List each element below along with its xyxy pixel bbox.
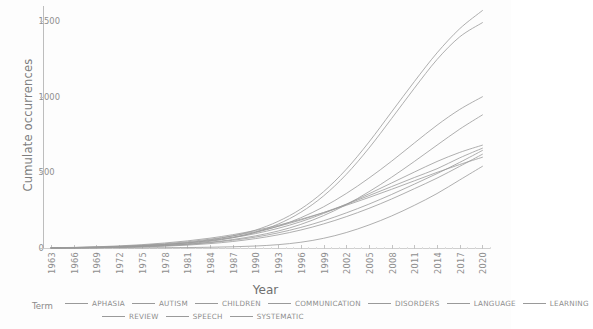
legend-row: REVIEWSPEECHSYSTEMATIC (102, 312, 311, 321)
series-line (51, 166, 482, 248)
legend-swatch (268, 303, 291, 304)
legend-swatch (132, 303, 155, 304)
legend-label: SYSTEMATIC (257, 312, 304, 321)
legend-item[interactable]: CHILDREN (195, 299, 261, 308)
legend-item[interactable]: AUTISM (132, 299, 188, 308)
legend-label: DISORDERS (395, 299, 440, 308)
x-axis-title: Year (0, 283, 511, 297)
legend-swatch (166, 316, 189, 317)
legend-swatch (102, 316, 125, 317)
legend-swatch (447, 303, 470, 304)
legend-label: LANGUAGE (474, 299, 516, 308)
series-line (51, 23, 482, 248)
legend-item[interactable]: LANGUAGE (447, 299, 516, 308)
legend-label: REVIEW (129, 312, 159, 321)
legend-swatch (65, 303, 88, 304)
legend-item[interactable]: SPEECH (166, 312, 223, 321)
legend-item[interactable]: SYSTEMATIC (230, 312, 304, 321)
series-line (51, 148, 482, 248)
legend-label: COMMUNICATION (295, 299, 361, 308)
legend-swatch (523, 303, 546, 304)
series-line (51, 145, 482, 248)
legend-item[interactable]: DISORDERS (368, 299, 440, 308)
legend-label: LEARNING (550, 299, 589, 308)
legend-item[interactable]: REVIEW (102, 312, 159, 321)
legend-label: AUTISM (159, 299, 188, 308)
legend-label: CHILDREN (222, 299, 261, 308)
series-line (51, 97, 482, 248)
legend-item[interactable]: LEARNING (523, 299, 589, 308)
legend-swatch (195, 303, 218, 304)
legend-swatch (230, 316, 253, 317)
legend-swatch (368, 303, 391, 304)
legend-row: APHASIAAUTISMCHILDRENCOMMUNICATIONDISORD… (65, 299, 593, 308)
legend-item[interactable]: COMMUNICATION (268, 299, 361, 308)
legend-title: Term (32, 301, 53, 311)
legend-item[interactable]: APHASIA (65, 299, 125, 308)
legend-label: SPEECH (193, 312, 223, 321)
legend-label: APHASIA (92, 299, 125, 308)
series-line (51, 11, 482, 248)
